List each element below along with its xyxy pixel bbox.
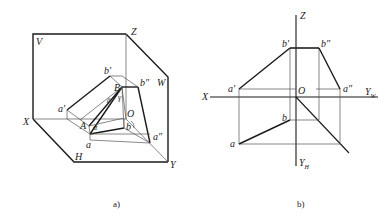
label-beta: β — [106, 96, 111, 104]
label-A: A — [79, 120, 87, 131]
label-b: b — [282, 112, 287, 123]
figure-b-orthographic: Z X O YW YH a′ b′ b″ a″ a b b) — [201, 10, 378, 209]
A-to-a-line — [89, 126, 90, 134]
w-projection-ab — [138, 87, 150, 143]
v-projection-ab — [239, 48, 290, 89]
label-a: a — [230, 138, 235, 149]
label-a-double: a″ — [343, 83, 353, 94]
label-b: b — [126, 121, 131, 132]
label-b-double: b″ — [321, 38, 331, 49]
v-plane-outline — [33, 34, 126, 119]
label-b-double: b″ — [140, 77, 150, 88]
slab-bottom-edge — [90, 140, 150, 143]
label-b-prime: b′ — [282, 38, 290, 49]
label-O: O — [298, 85, 305, 96]
h-projection-ab — [239, 120, 290, 144]
label-Y-H: YH — [299, 157, 310, 170]
label-a-prime: a′ — [58, 103, 66, 114]
diagonal-45-line — [296, 97, 349, 153]
label-X: X — [22, 116, 30, 127]
label-gamma: γ — [118, 93, 122, 102]
label-a-double: a″ — [153, 131, 163, 142]
label-Z: Z — [300, 10, 306, 21]
w-projection-ab — [319, 48, 340, 89]
caption-b: b) — [297, 199, 305, 209]
label-X: X — [201, 91, 209, 102]
label-V: V — [36, 36, 44, 47]
label-b-prime: b′ — [104, 65, 112, 76]
label-B: B — [114, 82, 120, 93]
caption-a: a) — [113, 199, 120, 209]
label-Z: Z — [131, 26, 137, 37]
label-W: W — [157, 77, 167, 88]
label-H: H — [74, 151, 83, 162]
label-Y: Y — [170, 159, 177, 170]
v-projection-ab — [67, 76, 110, 110]
label-a-prime: a′ — [228, 83, 236, 94]
figure-a-pictorial: V Z W X H Y O a′ b′ b″ a″ B A a b α β γ … — [22, 26, 177, 209]
label-O: O — [127, 108, 134, 119]
label-a: a — [86, 139, 91, 150]
projection-diagram: V Z W X H Y O a′ b′ b″ a″ B A a b α β γ … — [0, 0, 391, 221]
